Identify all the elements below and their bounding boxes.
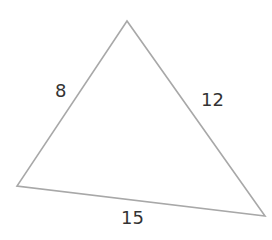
triangle-shape [0, 0, 272, 240]
side-label-right: 12 [201, 91, 224, 109]
side-label-left: 8 [55, 82, 66, 100]
triangle-diagram: 8 12 15 [0, 0, 272, 240]
side-label-bottom: 15 [121, 209, 144, 227]
